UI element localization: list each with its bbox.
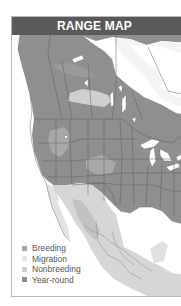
range-map-title: RANGE MAP [12, 17, 181, 35]
year-round-swatch-icon [22, 277, 27, 282]
legend-item-nonbreeding: Nonbreeding [22, 264, 81, 275]
legend-item-breeding: Breeding [22, 243, 81, 254]
legend: Breeding Migration Nonbreeding Year-roun… [22, 243, 81, 285]
legend-item-migration: Migration [22, 254, 81, 265]
range-map-panel: RANGE MAP [11, 16, 181, 297]
legend-item-year-round: Year-round [22, 275, 81, 286]
nonbreeding-swatch-icon [22, 267, 27, 272]
breeding-swatch-icon [22, 246, 27, 251]
migration-swatch-icon [22, 256, 27, 261]
